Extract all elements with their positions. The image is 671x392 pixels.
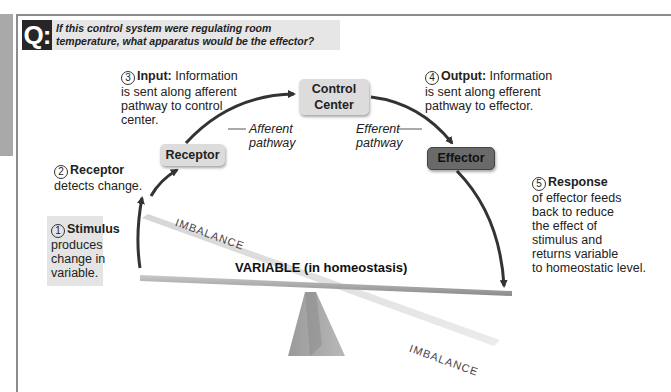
- step-2-number: 2: [54, 165, 68, 179]
- stimulus-to-receptor-arrow: [151, 170, 177, 196]
- step-3-inline: Information: [175, 69, 238, 83]
- receptor-box: Receptor: [160, 144, 225, 166]
- step-5-line: the effect of: [532, 219, 646, 233]
- step-5-line: of effector feeds: [532, 191, 646, 205]
- step-4-title: Output:: [441, 69, 486, 83]
- afferent-line2: pathway: [249, 136, 296, 150]
- response-arrow: [457, 171, 504, 286]
- step-3-line: is sent along afferent: [121, 85, 238, 99]
- step-3-note: 3Input: Information is sent along affere…: [121, 69, 238, 127]
- step-4-inline: Information: [490, 69, 553, 83]
- step-4-line: is sent along efferent: [425, 85, 552, 99]
- step-5-line: stimulus and: [532, 233, 646, 247]
- step-2-note: 2Receptor detects change.: [54, 163, 142, 193]
- stimulus-arrow: [138, 198, 142, 268]
- step-5-line: returns variable: [532, 247, 646, 261]
- step-2-title: Receptor: [70, 163, 124, 177]
- step-4-note: 4Output: Information is sent along effer…: [425, 69, 552, 113]
- step-5-number: 5: [532, 177, 546, 191]
- to-receptor-arrow: [145, 168, 175, 190]
- afferent-pathway-label: Afferent pathway: [249, 122, 296, 150]
- control-center-line2: Center: [299, 97, 369, 113]
- variable-label: VARIABLE (in homeostasis): [235, 260, 407, 275]
- step-1-note: 1Stimulus produces change in variable.: [51, 222, 120, 280]
- step-1-line: change in: [51, 252, 120, 266]
- step-4-number: 4: [425, 71, 439, 85]
- step-1-title: Stimulus: [67, 222, 120, 236]
- step-1-line: produces: [51, 238, 120, 252]
- step-1-number: 1: [51, 224, 65, 238]
- step-4-line: pathway to effector.: [425, 99, 552, 113]
- step-5-line: to homeostatic level.: [532, 261, 646, 275]
- step-5-line: back to reduce: [532, 205, 646, 219]
- efferent-pathway-label: Efferent pathway: [356, 122, 403, 150]
- control-center-line1: Control: [299, 81, 369, 97]
- step-5-title: Response: [548, 175, 608, 189]
- afferent-line1: Afferent: [249, 122, 296, 136]
- control-center-box: Control Center: [299, 79, 369, 115]
- step-2-line: detects change.: [54, 179, 142, 193]
- step-5-note: 5Response of effector feeds back to redu…: [532, 175, 646, 275]
- step-3-line: pathway to control: [121, 99, 238, 113]
- efferent-line1: Efferent: [356, 122, 403, 136]
- step-3-title: Input:: [137, 69, 172, 83]
- step-3-line: center.: [121, 113, 238, 127]
- fulcrum-icon: [288, 292, 345, 356]
- step-1-line: variable.: [51, 266, 120, 280]
- step-3-number: 3: [121, 71, 135, 85]
- efferent-line2: pathway: [356, 136, 403, 150]
- effector-box: Effector: [427, 147, 495, 170]
